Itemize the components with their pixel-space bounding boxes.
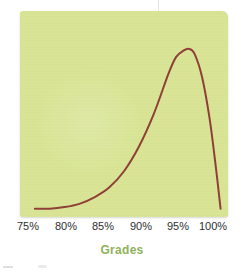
x-tick-label-1: 80%	[55, 220, 77, 232]
plot-panel	[20, 11, 228, 217]
page-edge-artifact-left	[3, 266, 13, 268]
grades-distribution-figure: 75% 80% 85% 90% 95% 100% Grades	[0, 0, 244, 272]
distribution-curve	[20, 11, 228, 217]
x-tick-label-0: 75%	[17, 220, 39, 232]
page-edge-artifact-right	[38, 265, 47, 268]
x-tick-label-3: 90%	[130, 220, 152, 232]
x-axis-tick-labels: 75% 80% 85% 90% 95% 100%	[0, 220, 244, 236]
x-tick-label-4: 95%	[167, 220, 189, 232]
x-tick-label-5: 100%	[199, 220, 227, 232]
distribution-curve-path	[35, 49, 221, 209]
x-tick-label-2: 85%	[92, 220, 114, 232]
x-axis-title: Grades	[0, 243, 244, 257]
